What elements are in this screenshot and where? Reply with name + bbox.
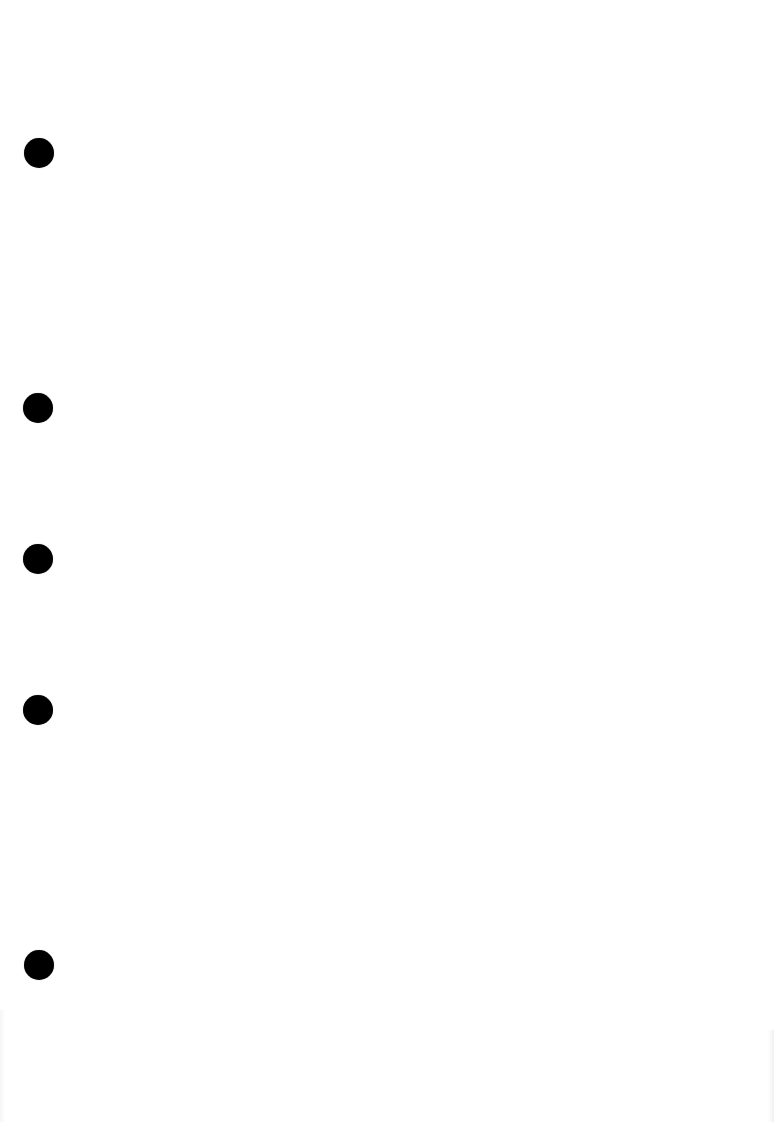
page-edge-shadow-left [0, 1010, 5, 1122]
punch-hole-4 [23, 695, 53, 725]
punch-hole-5 [24, 950, 54, 980]
blank-page [0, 0, 774, 1122]
page-edge-shadow-right [768, 1030, 774, 1122]
punch-hole-2 [23, 393, 53, 423]
punch-hole-3 [23, 544, 53, 574]
punch-hole-1 [24, 138, 54, 168]
